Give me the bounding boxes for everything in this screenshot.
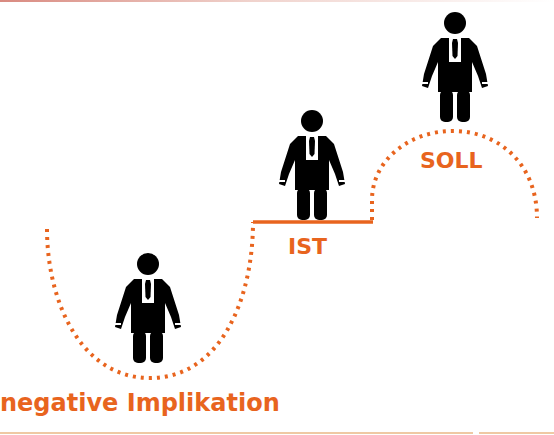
ist-label: IST <box>288 236 327 258</box>
negative-implication-label: negative Implikation <box>0 391 280 415</box>
bottom-rule-right <box>479 432 554 434</box>
soll-label: SOLL <box>420 150 483 172</box>
bottom-rule-left <box>0 432 473 434</box>
businessman-icon <box>422 12 488 122</box>
businessman-icon <box>279 110 345 220</box>
soll-arch <box>372 131 537 220</box>
state-transition-diagram <box>0 0 554 435</box>
businessman-icon <box>115 253 181 363</box>
